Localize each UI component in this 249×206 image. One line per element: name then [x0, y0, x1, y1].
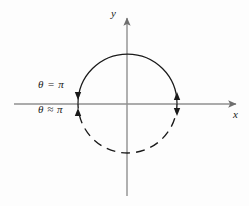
right-lower-arrowhead-icon — [174, 108, 180, 116]
y-axis-label: y — [111, 8, 116, 19]
polar-circle-figure: θ = π θ ≈ π y x — [0, 0, 249, 206]
x-axis-label: x — [233, 109, 238, 120]
label-theta-equals-pi: θ = π — [38, 79, 64, 90]
label-theta-approx-pi: θ ≈ π — [38, 104, 63, 115]
left-lower-arrowhead-icon — [75, 108, 81, 116]
left-upper-arrowhead-icon — [75, 92, 81, 100]
right-upper-arrowhead-icon — [174, 92, 180, 100]
